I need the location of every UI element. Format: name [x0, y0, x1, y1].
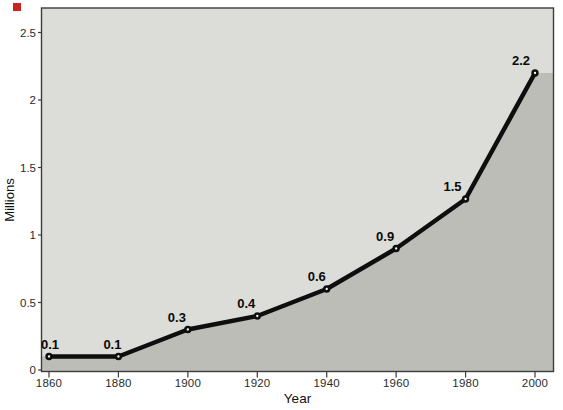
y-axis-title: Millions: [2, 178, 17, 221]
y-tick-label: 2.5: [20, 27, 36, 39]
y-tick-label: 0: [30, 364, 36, 376]
x-tick-label: 1860: [36, 377, 62, 389]
x-tick-label: 1880: [105, 377, 131, 389]
data-point-center: [464, 198, 466, 200]
data-point-center: [256, 315, 258, 317]
x-tick-label: 2000: [522, 377, 548, 389]
data-point-center: [534, 72, 536, 74]
data-point-label: 0.6: [308, 269, 326, 284]
y-tick-label: 1.5: [20, 162, 36, 174]
data-point-label: 0.1: [103, 337, 121, 352]
chart-plot: [0, 0, 563, 410]
x-tick-label: 1920: [244, 377, 270, 389]
data-point-label: 0.4: [237, 296, 255, 311]
x-axis-title: Year: [284, 391, 311, 406]
y-tick-label: 1: [30, 229, 36, 241]
data-point-label: 0.9: [376, 229, 394, 244]
data-point-center: [395, 247, 397, 249]
data-point-label: 0.1: [41, 337, 59, 352]
data-point-center: [117, 355, 119, 357]
data-point-label: 0.3: [168, 310, 186, 325]
y-tick-label: 2: [30, 94, 36, 106]
data-point-center: [326, 288, 328, 290]
figure-canvas: 1860188019001920194019601980200000.511.5…: [0, 0, 563, 410]
data-point-center: [187, 328, 189, 330]
data-point-center: [48, 355, 50, 357]
x-tick-label: 1940: [314, 377, 340, 389]
data-point-label: 2.2: [512, 53, 530, 68]
x-tick-label: 1960: [383, 377, 409, 389]
data-point-label: 1.5: [444, 179, 462, 194]
y-tick-label: 0.5: [20, 297, 36, 309]
x-tick-label: 1980: [452, 377, 478, 389]
x-tick-label: 1900: [175, 377, 201, 389]
